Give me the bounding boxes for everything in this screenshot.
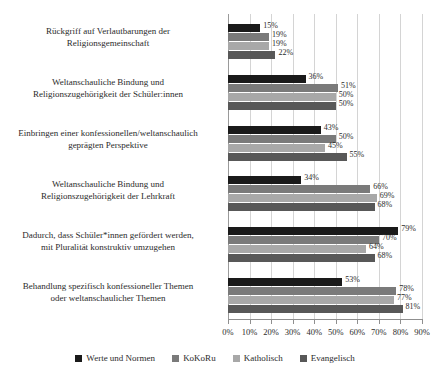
bar [228,227,398,235]
bar-group: 34%66%69%68% [228,166,422,217]
bar-track: 68% [228,203,422,211]
bar-track: 55% [228,153,422,161]
legend-label: Evangelisch [311,352,355,364]
legend-label: Werte und Normen [86,352,155,364]
bar-track: 34% [228,176,422,184]
bar-value-label: 78% [399,284,414,293]
x-tick-70 [379,319,380,324]
gridline-90 [422,14,423,319]
bar-value-label: 45% [328,141,343,150]
bar-value-label: 34% [304,173,319,182]
bar [228,254,375,262]
group-spacer [228,217,422,227]
bar-track: 51% [228,84,422,92]
bar-track: 78% [228,287,422,295]
bar [228,102,336,110]
bar [228,194,377,202]
bar [228,42,269,50]
bar-value-label: 70% [382,233,397,242]
bar-value-label: 19% [272,30,287,39]
bar [228,144,325,152]
bar-value-label: 68% [378,251,393,260]
bar-value-label: 79% [401,224,416,233]
group-spacer [228,14,422,24]
category-label-line: Einbringen einer konfessionellen/weltans… [0,127,216,139]
legend-label: KoKoRu [183,352,216,364]
bar-track: 50% [228,93,422,101]
bar-value-label: 50% [339,99,354,108]
bar-track: 77% [228,296,422,304]
bar-track: 22% [228,51,422,59]
bar [228,278,342,286]
bar-value-label: 68% [378,200,393,209]
bar-track: 64% [228,245,422,253]
bar [228,84,338,92]
bar [228,305,403,313]
bar-group: 53%78%77%81% [228,268,422,319]
category-label-line: mit Pluralität konstruktiv umzugehen [0,241,216,253]
bar-value-label: 69% [380,191,395,200]
bar [228,33,269,41]
bar-track: 19% [228,33,422,41]
legend-label: Katholisch [244,352,283,364]
x-tick-10 [250,319,251,324]
bar-track: 53% [228,278,422,286]
category-axis-labels: Rückgriff auf Verlautbarungen derReligio… [0,14,222,319]
legend-item[interactable]: Katholisch [233,352,283,364]
x-tick-60 [357,319,358,324]
bar-track: 50% [228,135,422,143]
bar-value-label: 53% [345,275,360,284]
x-tick-30 [293,319,294,324]
bar [228,24,260,32]
category-label-line: geprägten Perspektive [0,139,216,151]
bar-value-label: 19% [272,39,287,48]
x-tick-50 [336,319,337,324]
x-axis-line [228,319,422,320]
bar-track: 45% [228,144,422,152]
bar-value-label: 15% [263,21,278,30]
category-label-line: Behandlung spezifisch konfessioneller Th… [0,280,216,292]
category-label: Rückgriff auf Verlautbarungen derReligio… [0,25,216,49]
group-spacer [228,268,422,278]
x-tick-90 [422,319,423,324]
legend-swatch-icon [300,355,307,362]
bar-track: 70% [228,236,422,244]
category-label: Dadurch, dass Schüler*innen gefördert we… [0,229,216,253]
category-label-line: Religionszugehörigkeit der Schüler:innen [0,88,216,100]
bar-group: 43%50%45%55% [228,116,422,167]
bar [228,176,301,184]
bar-rows: 15%19%19%22%36%51%50%50%43%50%45%55%34%6… [228,14,422,319]
bar-value-label: 77% [397,293,412,302]
category-label-line: Weltanschauliche Bindung und [0,178,216,190]
bar-value-label: 36% [309,72,324,81]
bar [228,287,396,295]
legend-item[interactable]: Werte und Normen [75,352,155,364]
category-label-line: Dadurch, dass Schüler*innen gefördert we… [0,229,216,241]
bar [228,296,394,304]
category-label-line: Rückgriff auf Verlautbarungen der [0,25,216,37]
group-spacer [228,166,422,176]
bar-group: 79%70%64%68% [228,217,422,268]
x-tick-80 [400,319,401,324]
legend-swatch-icon [75,355,82,362]
bar [228,75,306,83]
bar-track: 68% [228,254,422,262]
bar [228,135,336,143]
group-spacer [228,65,422,75]
bar-track: 15% [228,24,422,32]
x-tick-40 [314,319,315,324]
category-label-line: Religionsgemeinschaft [0,37,216,49]
x-tick-0 [228,319,229,324]
bar-track: 50% [228,102,422,110]
legend-swatch-icon [233,355,240,362]
x-tick-20 [271,319,272,324]
legend: Werte und NormenKoKoRuKatholischEvangeli… [0,352,430,364]
bar [228,51,275,59]
bar-value-label: 81% [406,302,421,311]
bar [228,203,375,211]
bar [228,185,370,193]
legend-item[interactable]: Evangelisch [300,352,355,364]
bar [228,245,366,253]
legend-item[interactable]: KoKoRu [172,352,216,364]
